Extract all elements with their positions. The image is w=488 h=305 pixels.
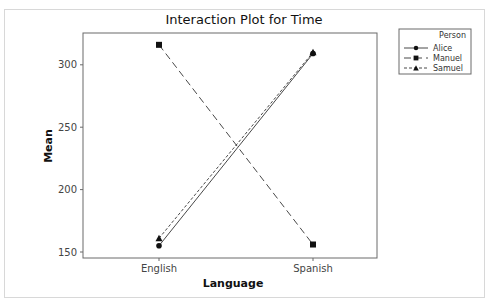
legend-label: Manuel (433, 54, 462, 63)
y-tick-label: 250 (58, 122, 77, 133)
square-marker (156, 42, 162, 48)
y-tick-label: 150 (58, 247, 77, 258)
legend-label: Alice (433, 44, 452, 53)
triangle-marker (310, 49, 317, 56)
circle-marker (156, 243, 162, 249)
legend-item-manuel: Manuel (404, 54, 462, 63)
circle-marker (414, 46, 418, 50)
y-axis: 150200250300 (58, 59, 83, 257)
y-tick-label: 200 (58, 184, 77, 195)
x-axis-label: Language (203, 277, 264, 290)
legend-item-alice: Alice (404, 44, 452, 53)
plot-area (83, 33, 377, 258)
legend-item-samuel: Samuel (404, 64, 463, 73)
square-marker (310, 242, 316, 248)
x-tick-label: English (141, 263, 177, 274)
series-line (159, 52, 313, 238)
series-samuel (156, 49, 317, 241)
chart-title: Interaction Plot for Time (165, 12, 322, 27)
x-axis: EnglishSpanish (141, 258, 333, 274)
y-tick-label: 300 (58, 59, 77, 70)
series-line (159, 54, 313, 246)
interaction-plot: Interaction Plot for Time 150200250300 E… (0, 0, 488, 305)
series-alice (156, 51, 316, 249)
triangle-marker (156, 235, 163, 242)
y-axis-label: Mean (42, 129, 55, 163)
series-group (156, 42, 317, 249)
square-marker (414, 56, 419, 61)
legend-title: Person (439, 31, 466, 40)
x-tick-label: Spanish (293, 263, 333, 274)
legend: Person AliceManuelSamuel (399, 29, 471, 74)
legend-label: Samuel (433, 64, 463, 73)
